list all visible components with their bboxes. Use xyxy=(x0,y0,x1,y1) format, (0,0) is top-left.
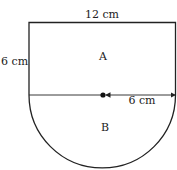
region-a-label: A xyxy=(98,50,108,63)
top-width-label: 12 cm xyxy=(85,8,120,21)
composite-shape-diagram: 12 cm 6 cm A 6 cm B xyxy=(0,0,177,170)
left-height-label: 6 cm xyxy=(1,55,29,68)
region-b-label: B xyxy=(101,121,109,134)
center-point xyxy=(100,92,105,97)
radius-label: 6 cm xyxy=(128,94,156,107)
